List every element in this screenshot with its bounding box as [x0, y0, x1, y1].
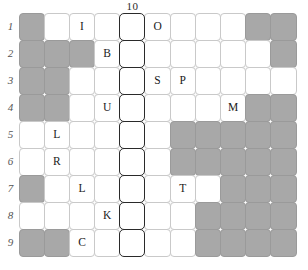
grid-cell-r1c9[interactable] [220, 13, 246, 41]
grid-cell-r4c3[interactable] [69, 94, 95, 122]
grid-cell-r2c2[interactable] [44, 40, 70, 68]
grid-cell-r8c3[interactable] [69, 202, 95, 230]
grid-cell-r8c2[interactable] [44, 202, 70, 230]
grid-cell-r5c6[interactable] [144, 121, 170, 149]
grid-cell-r8c9[interactable] [220, 202, 246, 230]
grid-cell-r2c10[interactable] [245, 40, 271, 68]
grid-cell-r5c1[interactable] [19, 121, 45, 149]
grid-cell-r1c1[interactable] [19, 13, 45, 41]
grid-cell-r6c9[interactable] [220, 148, 246, 176]
grid-cell-r4c1[interactable] [19, 94, 45, 122]
grid-cell-r6c2[interactable]: R [44, 148, 70, 176]
grid-cell-r3c6[interactable]: S [144, 67, 170, 95]
grid-cell-r4c9[interactable]: M [220, 94, 246, 122]
grid-cell-r6c8[interactable] [195, 148, 221, 176]
grid-cell-r5c4[interactable] [94, 121, 120, 149]
grid-cell-r6c10[interactable] [245, 148, 271, 176]
grid-cell-r2c9[interactable] [220, 40, 246, 68]
grid-cell-r1c4[interactable] [94, 13, 120, 41]
grid-cell-r5c11[interactable] [270, 121, 296, 149]
grid-cell-r1c10[interactable] [245, 13, 271, 41]
grid-cell-r3c10[interactable] [245, 67, 271, 95]
grid-cell-r8c10[interactable] [245, 202, 271, 230]
grid-cell-r5c2[interactable]: L [44, 121, 70, 149]
grid-cell-r3c7[interactable]: P [170, 67, 196, 95]
grid-cell-r2c4[interactable]: B [94, 40, 120, 68]
grid-cell-r7c6[interactable] [144, 175, 170, 203]
grid-cell-r5c5[interactable] [119, 121, 145, 149]
grid-cell-r2c8[interactable] [195, 40, 221, 68]
grid-cell-r2c1[interactable] [19, 40, 45, 68]
grid-cell-r1c2[interactable] [44, 13, 70, 41]
grid-cell-r3c5[interactable] [119, 67, 145, 95]
grid-cell-r7c11[interactable] [270, 175, 296, 203]
grid-cell-r8c5[interactable] [119, 202, 145, 230]
grid-cell-r6c4[interactable] [94, 148, 120, 176]
grid-cell-r9c9[interactable] [220, 229, 246, 257]
grid-cell-r8c1[interactable] [19, 202, 45, 230]
grid-cell-r7c10[interactable] [245, 175, 271, 203]
grid-cell-r3c4[interactable] [94, 67, 120, 95]
grid-cell-r8c7[interactable] [170, 202, 196, 230]
grid-cell-r1c3[interactable]: I [69, 13, 95, 41]
grid-cell-r6c6[interactable] [144, 148, 170, 176]
grid-cell-r4c6[interactable] [144, 94, 170, 122]
grid-cell-r3c3[interactable] [69, 67, 95, 95]
grid-cell-r5c10[interactable] [245, 121, 271, 149]
grid-cell-r8c4[interactable]: K [94, 202, 120, 230]
grid-cell-r7c4[interactable] [94, 175, 120, 203]
grid-cell-r2c5[interactable] [119, 40, 145, 68]
grid-cell-r6c3[interactable] [69, 148, 95, 176]
grid-cell-r5c3[interactable] [69, 121, 95, 149]
grid-cell-r1c7[interactable] [170, 13, 196, 41]
grid-cell-r2c6[interactable] [144, 40, 170, 68]
grid-cell-r9c6[interactable] [144, 229, 170, 257]
grid-cell-r2c7[interactable] [170, 40, 196, 68]
grid-cell-r4c7[interactable] [170, 94, 196, 122]
grid-cell-r9c2[interactable] [44, 229, 70, 257]
grid-cell-r6c1[interactable] [19, 148, 45, 176]
grid-cell-r9c10[interactable] [245, 229, 271, 257]
grid-cell-r8c8[interactable] [195, 202, 221, 230]
puzzle-grid[interactable]: IOBSPUMLRLTKC [19, 13, 296, 256]
grid-cell-r7c2[interactable] [44, 175, 70, 203]
grid-cell-r6c11[interactable] [270, 148, 296, 176]
grid-cell-r9c3[interactable]: C [69, 229, 95, 257]
grid-cell-r7c3[interactable]: L [69, 175, 95, 203]
grid-cell-r2c11[interactable] [270, 40, 296, 68]
grid-cell-r4c10[interactable] [245, 94, 271, 122]
grid-cell-r3c11[interactable] [270, 67, 296, 95]
grid-cell-r7c1[interactable] [19, 175, 45, 203]
grid-cell-r9c7[interactable] [170, 229, 196, 257]
grid-cell-r3c2[interactable] [44, 67, 70, 95]
grid-cell-r4c4[interactable]: U [94, 94, 120, 122]
grid-cell-r3c1[interactable] [19, 67, 45, 95]
grid-cell-r9c8[interactable] [195, 229, 221, 257]
grid-cell-r2c3[interactable] [69, 40, 95, 68]
grid-cell-r6c7[interactable] [170, 148, 196, 176]
grid-cell-r1c6[interactable]: O [144, 13, 170, 41]
grid-cell-r7c7[interactable]: T [170, 175, 196, 203]
grid-cell-r4c5[interactable] [119, 94, 145, 122]
grid-cell-r4c8[interactable] [195, 94, 221, 122]
grid-cell-r8c11[interactable] [270, 202, 296, 230]
grid-cell-r9c1[interactable] [19, 229, 45, 257]
grid-cell-r3c9[interactable] [220, 67, 246, 95]
grid-cell-r7c8[interactable] [195, 175, 221, 203]
grid-cell-r5c7[interactable] [170, 121, 196, 149]
grid-cell-r9c4[interactable] [94, 229, 120, 257]
grid-cell-r7c5[interactable] [119, 175, 145, 203]
grid-cell-r8c6[interactable] [144, 202, 170, 230]
grid-cell-r1c8[interactable] [195, 13, 221, 41]
grid-cell-r6c5[interactable] [119, 148, 145, 176]
grid-cell-r1c5[interactable] [119, 13, 145, 41]
grid-cell-r1c11[interactable] [270, 13, 296, 41]
grid-cell-r3c8[interactable] [195, 67, 221, 95]
grid-cell-r5c8[interactable] [195, 121, 221, 149]
grid-cell-r4c2[interactable] [44, 94, 70, 122]
grid-cell-r9c11[interactable] [270, 229, 296, 257]
grid-cell-r7c9[interactable] [220, 175, 246, 203]
grid-cell-r4c11[interactable] [270, 94, 296, 122]
grid-cell-r5c9[interactable] [220, 121, 246, 149]
grid-cell-r9c5[interactable] [119, 229, 145, 257]
